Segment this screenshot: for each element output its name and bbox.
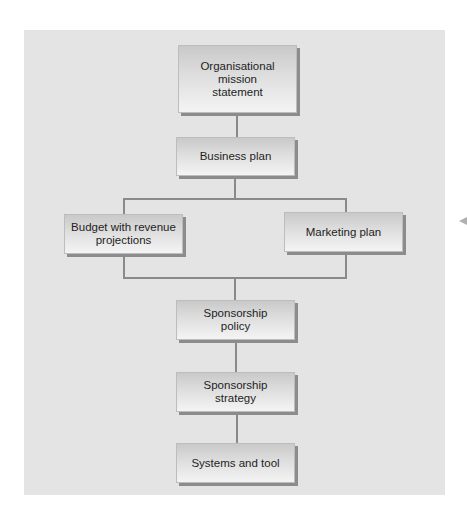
connector-business-to-split xyxy=(234,176,236,200)
node-label-line: Sponsorship xyxy=(204,307,268,320)
node-organisational-mission-statement: Organisational mission statement xyxy=(178,45,297,113)
node-budget-with-revenue-projections: Budget with revenue projections xyxy=(64,214,183,254)
connector-merge-to-policy xyxy=(234,277,236,300)
node-label-line: Budget with revenue xyxy=(71,221,176,234)
node-label-line: mission xyxy=(200,73,274,86)
node-sponsorship-policy: Sponsorship policy xyxy=(176,300,295,340)
node-label-line: statement xyxy=(200,86,274,99)
node-label-line: Business plan xyxy=(200,150,272,163)
node-sponsorship-strategy: Sponsorship strategy xyxy=(176,372,295,412)
node-systems-and-tool: Systems and tool xyxy=(176,443,295,483)
connector-policy-to-strategy xyxy=(235,340,237,372)
connector-split-to-budget xyxy=(123,198,125,214)
connector-top-split-horizontal xyxy=(123,198,347,200)
node-label-line: Sponsorship xyxy=(204,379,268,392)
node-marketing-plan: Marketing plan xyxy=(284,212,403,252)
left-arrow-icon xyxy=(459,217,467,225)
connector-mission-to-business xyxy=(236,113,238,137)
node-label-line: Organisational xyxy=(200,60,274,73)
node-label-line: projections xyxy=(71,234,176,247)
node-business-plan: Business plan xyxy=(176,137,295,176)
node-label-line: Marketing plan xyxy=(306,226,381,239)
connector-strategy-to-systems xyxy=(236,412,238,443)
connector-marketing-to-merge xyxy=(345,252,347,279)
node-label-line: policy xyxy=(204,320,268,333)
connector-budget-to-merge xyxy=(123,254,125,279)
node-label-line: strategy xyxy=(204,392,268,405)
node-label-line: Systems and tool xyxy=(191,457,279,470)
connector-split-to-marketing xyxy=(345,198,347,212)
